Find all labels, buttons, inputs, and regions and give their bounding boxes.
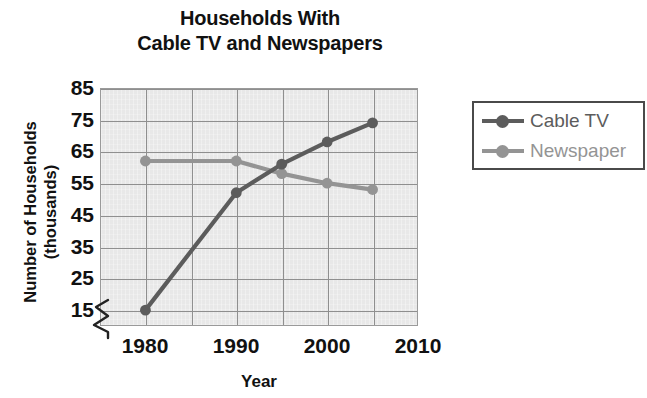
gridline-vertical [328, 89, 329, 325]
legend-marker-icon [482, 113, 524, 129]
gridline-horizontal [101, 279, 417, 280]
x-axis-tick-labels: 1980199020002010 [100, 333, 418, 363]
x-axis-title: Year [100, 372, 418, 392]
legend: Cable TVNewspaper [472, 101, 645, 170]
title-line-2: Cable TV and Newspapers [60, 31, 460, 56]
chart-figure: Households With Cable TV and Newspapers … [0, 0, 647, 398]
legend-dot [496, 145, 509, 158]
y-axis-tick-labels: 1525354555657585 [46, 88, 94, 326]
legend-label: Cable TV [530, 110, 609, 132]
plot-area [100, 88, 418, 326]
page-title: Households With Cable TV and Newspapers [60, 6, 460, 56]
gridline-horizontal [101, 121, 417, 122]
legend-dot [496, 115, 509, 128]
gridline-horizontal [101, 216, 417, 217]
title-line-1: Households With [60, 6, 460, 31]
y-axis-tick-label: 45 [48, 204, 94, 225]
legend-label: Newspaper [530, 140, 626, 162]
gridline-vertical [192, 89, 193, 325]
y-axis-tick-label: 65 [48, 140, 94, 161]
x-axis-tick-label: 1980 [105, 333, 185, 359]
y-axis-tick-label: 75 [48, 109, 94, 130]
legend-item-cable-tv[interactable]: Cable TV [482, 107, 609, 135]
plot-texture [101, 89, 417, 325]
x-axis-tick-label: 2010 [378, 333, 458, 359]
gridline-horizontal [101, 89, 417, 90]
legend-item-newspaper[interactable]: Newspaper [482, 137, 626, 165]
x-axis-tick-label: 2000 [287, 333, 367, 359]
y-axis-tick-label: 55 [48, 172, 94, 193]
axis-break-icon [86, 298, 112, 340]
gridline-horizontal [101, 311, 417, 312]
legend-marker-icon [482, 143, 524, 159]
gridline-vertical [237, 89, 238, 325]
gridline-vertical [283, 89, 284, 325]
y-axis-tick-label: 85 [48, 77, 94, 98]
gridline-horizontal [101, 152, 417, 153]
gridline-vertical [146, 89, 147, 325]
y-axis-tick-label: 25 [48, 267, 94, 288]
gridline-horizontal [101, 184, 417, 185]
y-axis-title-line-1: Number of Households [20, 82, 40, 342]
x-axis-tick-label: 1990 [196, 333, 276, 359]
gridline-horizontal [101, 248, 417, 249]
gridline-vertical [374, 89, 375, 325]
y-axis-tick-label: 35 [48, 236, 94, 257]
